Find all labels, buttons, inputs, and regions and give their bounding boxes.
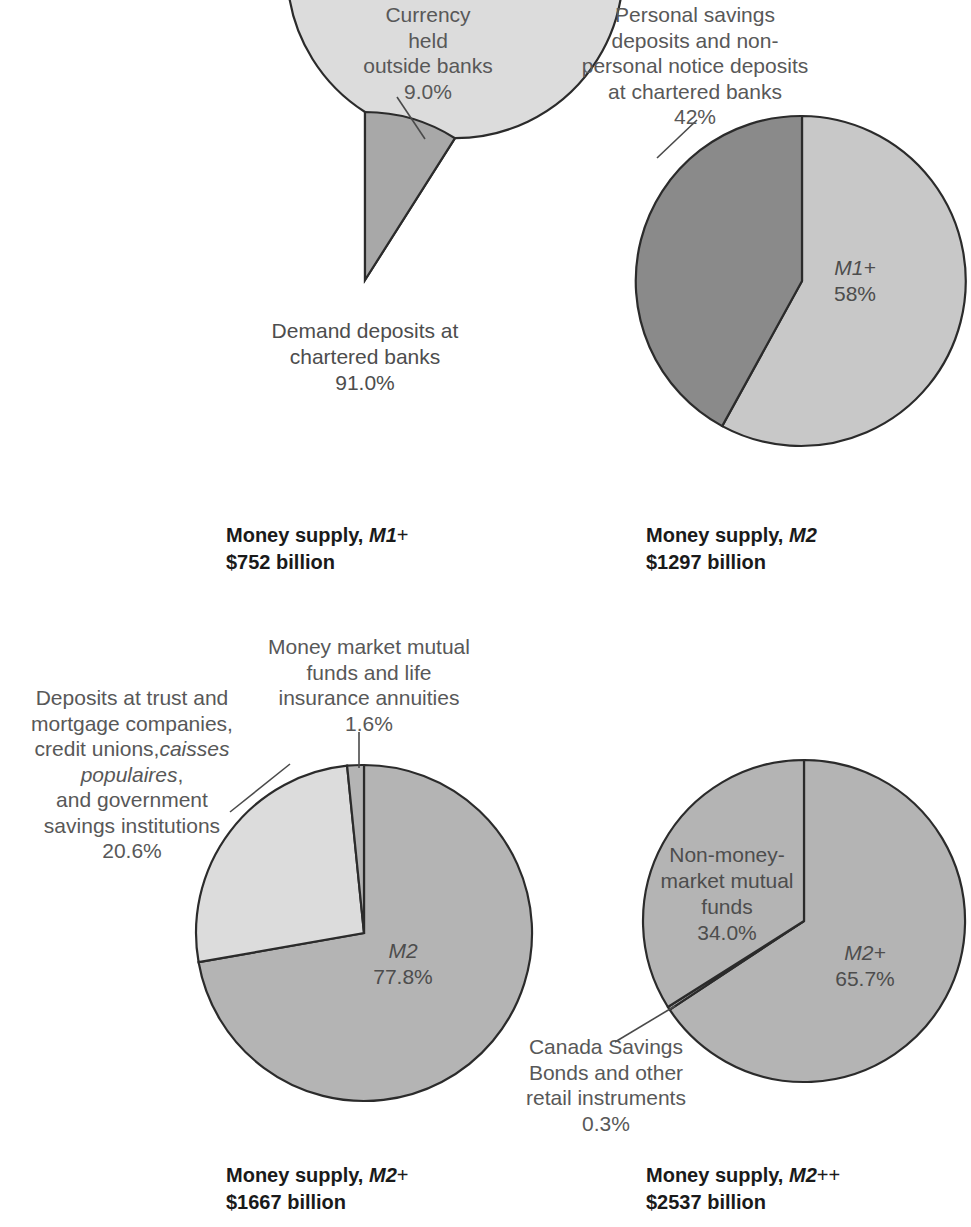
label-m2-symbol: M2 — [388, 939, 417, 962]
caption-m2plus-symbol: M2 — [369, 1164, 397, 1186]
caption-m2plus-symbol-suffix: + — [397, 1164, 409, 1186]
caption-m2plusplus-symbol-suffix: ++ — [817, 1164, 840, 1186]
label-m1plus-symbol: M1+ — [834, 256, 875, 279]
label-m2plusplus-m2plus-slice: M2+65.7% — [800, 940, 930, 992]
caption-m2-symbol: M2 — [789, 524, 817, 546]
label-mmmf: Money market mutual funds and life insur… — [253, 634, 485, 736]
label-m2-m1plus-slice: M1+58% — [790, 255, 920, 307]
caption-m2-prefix: Money supply, — [646, 524, 789, 546]
label-m2plus-symbol: M2+ — [844, 941, 885, 964]
label-m2plus-percent: 65.7% — [835, 967, 895, 990]
leader-line-mmmf — [354, 730, 374, 772]
caption-m1plus-symbol-suffix: + — [397, 524, 409, 546]
caption-m2plusplus-symbol: M2 — [789, 1164, 817, 1186]
label-trust-deposits: Deposits at trust and mortgage companies… — [10, 685, 254, 864]
caption-m2plusplus-amount: $2537 billion — [646, 1191, 766, 1213]
caption-m2: Money supply, M2$1297 billion — [646, 522, 971, 576]
label-currency-outside-banks: Currency held outside banks 9.0% — [333, 2, 523, 104]
caption-m2plus-prefix: Money supply, — [226, 1164, 369, 1186]
caption-m2plusplus-prefix: Money supply, — [646, 1164, 789, 1186]
label-demand-deposits: Demand deposits at chartered banks 91.0% — [240, 318, 490, 396]
caption-m1plus: Money supply, M1+$752 billion — [226, 522, 556, 576]
label-m2plus-m2-slice: M277.8% — [338, 938, 468, 990]
label-canada-savings-bonds: Canada Savings Bonds and other retail in… — [508, 1034, 704, 1136]
label-m1plus-percent: 58% — [834, 282, 876, 305]
caption-m1plus-prefix: Money supply, — [226, 524, 369, 546]
label-non-money-market-funds: Non-money- market mutual funds 34.0% — [636, 842, 818, 946]
label-personal-savings: Personal savings deposits and non- perso… — [560, 2, 830, 130]
caption-m2plus-amount: $1667 billion — [226, 1191, 346, 1213]
caption-m2plusplus: Money supply, M2++$2537 billion — [646, 1162, 971, 1216]
pie-chart-m1plus — [197, 112, 533, 448]
caption-m1plus-amount: $752 billion — [226, 551, 335, 573]
caption-m2-amount: $1297 billion — [646, 551, 766, 573]
label-m2-percent: 77.8% — [373, 965, 433, 988]
caption-m2plus: Money supply, M2+$1667 billion — [226, 1162, 556, 1216]
caption-m1plus-symbol: M1 — [369, 524, 397, 546]
